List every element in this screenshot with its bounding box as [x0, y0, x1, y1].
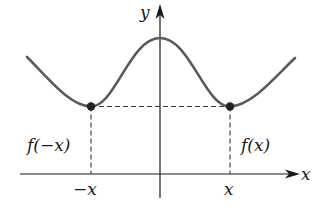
- right-tick-label: x: [224, 179, 234, 199]
- x-axis-label: x: [301, 164, 311, 184]
- y-axis-label: y: [139, 2, 150, 22]
- left-value-label: f(−x): [25, 135, 70, 155]
- left-point-marker: [87, 102, 95, 110]
- left-tick-label: −x: [73, 179, 97, 199]
- diagram-svg: y x f(−x) f(x) −x x: [0, 0, 329, 212]
- even-function-diagram: y x f(−x) f(x) −x x: [0, 0, 329, 212]
- right-point-marker: [226, 102, 234, 110]
- even-function-curve: [27, 38, 295, 107]
- right-value-label: f(x): [239, 135, 270, 155]
